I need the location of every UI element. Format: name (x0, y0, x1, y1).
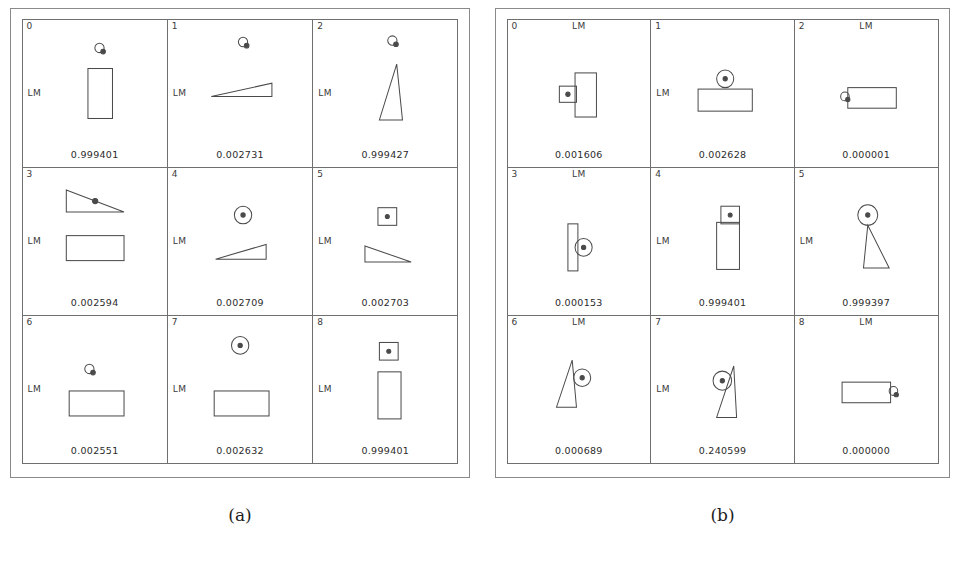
marker-dot-icon (728, 212, 732, 216)
panel-score: 0.999427 (313, 149, 457, 160)
panel-score: 0.001606 (508, 149, 651, 160)
wide-rect-shape (842, 382, 891, 403)
panel[interactable]: 7 LM 0.240599 (650, 315, 795, 464)
panel-shapes (651, 316, 794, 463)
marker-dot-icon (720, 378, 724, 382)
figure-a-panel-grid: 0 LM 0.999401 1 LM (22, 19, 458, 463)
thin-bar-shape (567, 223, 577, 270)
figure-b-panel-grid: 0 LM 0.001606 1 LM (507, 19, 938, 463)
tall-rect-shape (87, 68, 112, 118)
marker-dot-icon (238, 343, 242, 347)
panel[interactable]: 5 LM 0.999397 (794, 167, 939, 316)
panel-score: 0.999401 (23, 149, 167, 160)
panel[interactable]: 8 LM 0.000000 (794, 315, 939, 464)
panel[interactable]: 1 LM 0.002628 (650, 19, 795, 168)
tall-rect-shape (717, 222, 740, 269)
narrow-triangle-shape (380, 64, 403, 120)
marker-dot-icon (92, 198, 97, 203)
wide-rect-shape (66, 235, 124, 260)
triangle-shape (863, 225, 889, 268)
panel[interactable]: 3 LM 0.002594 (22, 167, 168, 316)
panel-shapes (23, 20, 167, 167)
panel-score: 0.002731 (168, 149, 312, 160)
panel[interactable]: 4 LM 0.002709 (167, 167, 313, 316)
panel-score: 0.999397 (795, 297, 938, 308)
marker-dot-icon (244, 43, 249, 48)
panel-shapes (651, 20, 794, 167)
figure-a-caption: (a) (10, 505, 470, 525)
panel[interactable]: 0 LM 0.001606 (507, 19, 652, 168)
panel-shapes (508, 168, 651, 315)
panel-score: 0.002551 (23, 445, 167, 456)
panel[interactable]: 6 LM 0.000689 (507, 315, 652, 464)
flat-triangle-shape (215, 244, 266, 259)
panel[interactable]: 8 LM 0.999401 (312, 315, 458, 464)
panel-shapes (313, 20, 457, 167)
panel-shapes (23, 168, 167, 315)
panel-score: 0.002594 (23, 297, 167, 308)
panel[interactable]: 0 LM 0.999401 (22, 19, 168, 168)
panel-score: 0.999401 (313, 445, 457, 456)
panel-shapes (795, 316, 938, 463)
panel-score: 0.002628 (651, 149, 794, 160)
panel-shapes (508, 20, 651, 167)
panel-shapes (168, 316, 312, 463)
panel-shapes (795, 168, 938, 315)
marker-dot-icon (241, 212, 245, 216)
panel-score: 0.000689 (508, 445, 651, 456)
marker-dot-icon (100, 49, 105, 54)
panel-shapes (508, 316, 651, 463)
panel[interactable]: 7 LM 0.002632 (167, 315, 313, 464)
narrow-triangle-shape (717, 365, 737, 416)
figure-b: 0 LM 0.001606 1 LM (495, 8, 950, 478)
panel-shapes (313, 168, 457, 315)
panel-score: 0.002632 (168, 445, 312, 456)
wide-rect-shape (848, 87, 897, 108)
marker-dot-icon (723, 76, 727, 80)
panel[interactable]: 3 LM 0.000153 (507, 167, 652, 316)
tall-rect-shape (575, 72, 596, 116)
panel[interactable]: 4 LM 0.999401 (650, 167, 795, 316)
flat-triangle-shape (365, 245, 411, 261)
panel-score: 0.002709 (168, 297, 312, 308)
marker-dot-icon (865, 212, 869, 216)
wide-rect-shape (698, 89, 752, 111)
panel-shapes (23, 316, 167, 463)
narrow-triangle-shape (556, 360, 576, 407)
figure-a: 0 LM 0.999401 1 LM (10, 8, 470, 478)
flat-triangle-shape (211, 83, 272, 96)
wide-rect-shape (69, 390, 124, 415)
tall-rect-shape (378, 371, 401, 418)
panel[interactable]: 2 LM 0.999427 (312, 19, 458, 168)
panel[interactable]: 6 LM 0.002551 (22, 315, 168, 464)
marker-dot-icon (581, 245, 585, 249)
figure-b-caption: (b) (495, 505, 950, 525)
panel-score: 0.002703 (313, 297, 457, 308)
panel-score: 0.999401 (651, 297, 794, 308)
panel-shapes (168, 20, 312, 167)
panel-score: 0.000153 (508, 297, 651, 308)
panel-score: 0.000001 (795, 149, 938, 160)
panel[interactable]: 2 LM 0.000001 (794, 19, 939, 168)
marker-dot-icon (580, 375, 584, 379)
marker-dot-icon (387, 349, 391, 353)
panel-shapes (795, 20, 938, 167)
panel[interactable]: 5 LM 0.002703 (312, 167, 458, 316)
panel-shapes (651, 168, 794, 315)
panel[interactable]: 1 LM 0.002731 (167, 19, 313, 168)
panel-shapes (313, 316, 457, 463)
panel-shapes (168, 168, 312, 315)
marker-dot-icon (385, 214, 389, 218)
wide-rect-shape (214, 390, 269, 415)
panel-score: 0.000000 (795, 445, 938, 456)
marker-dot-icon (394, 41, 399, 46)
marker-dot-icon (90, 370, 95, 375)
marker-dot-icon (894, 392, 898, 396)
marker-dot-icon (565, 92, 569, 96)
panel-score: 0.240599 (651, 445, 794, 456)
